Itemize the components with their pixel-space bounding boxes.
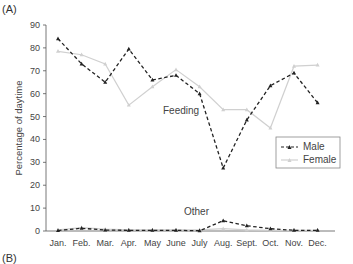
- y-axis-title: Percentage of daytime: [13, 80, 24, 175]
- chart-axes: [43, 25, 335, 231]
- x-tick-label: Nov.: [285, 238, 303, 248]
- triangle-marker-icon: [56, 37, 60, 41]
- x-tick-label: Dec.: [308, 238, 327, 248]
- y-tick-label: 80: [30, 43, 40, 53]
- y-tick-label: 70: [30, 66, 40, 76]
- triangle-marker-icon: [174, 73, 178, 77]
- x-tick-label: Oct.: [262, 238, 279, 248]
- y-tick-label: 60: [30, 89, 40, 99]
- x-tick-label: Feb.: [73, 238, 91, 248]
- legend-label-male: Male: [303, 141, 325, 152]
- triangle-marker-icon: [127, 47, 131, 51]
- triangle-marker-icon: [198, 91, 202, 95]
- annotation-feeding: Feeding: [163, 105, 199, 116]
- series-feeding-female: [58, 51, 318, 128]
- x-tick-label: Mar.: [96, 238, 114, 248]
- legend-label-female: Female: [303, 154, 337, 165]
- y-tick-label: 30: [30, 157, 40, 167]
- x-tick-label: July: [192, 238, 209, 248]
- x-tick-label: Jan.: [49, 238, 66, 248]
- x-tick-label: Apr.: [121, 238, 137, 248]
- y-axis-tick-labels: 0102030405060708090: [30, 20, 40, 236]
- x-tick-label: May: [144, 238, 162, 248]
- y-tick-label: 50: [30, 112, 40, 122]
- y-tick-label: 20: [30, 180, 40, 190]
- y-tick-label: 40: [30, 134, 40, 144]
- x-tick-label: Sept.: [236, 238, 257, 248]
- triangle-marker-icon: [174, 67, 178, 71]
- x-tick-label: Aug.: [214, 238, 233, 248]
- y-tick-label: 90: [30, 20, 40, 30]
- annotation-other: Other: [184, 206, 210, 217]
- x-tick-label: June: [166, 238, 186, 248]
- y-tick-label: 0: [35, 226, 40, 236]
- series-lines: [56, 37, 320, 233]
- y-tick-label: 10: [30, 203, 40, 213]
- legend: Male Female: [276, 137, 340, 168]
- x-axis-tick-labels: Jan.Feb.Mar.Apr.MayJuneJulyAug.Sept.Oct.…: [49, 238, 326, 248]
